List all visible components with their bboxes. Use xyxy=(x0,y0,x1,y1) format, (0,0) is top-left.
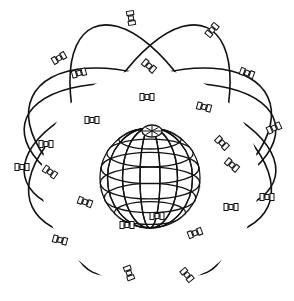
satellite-icon xyxy=(120,222,134,229)
satellite-icon xyxy=(224,204,238,211)
satellite-icon xyxy=(150,213,164,220)
satellite-icon xyxy=(260,194,274,201)
satellite-icon xyxy=(85,117,99,124)
satellite-icon xyxy=(15,164,29,171)
satellite-icon xyxy=(126,10,135,25)
diagram-canvas xyxy=(0,0,294,301)
gps-constellation-diagram xyxy=(0,0,294,301)
satellite-icon xyxy=(266,122,282,134)
satellite-icon xyxy=(140,94,154,101)
satellite-icon xyxy=(39,141,53,148)
satellite-icon xyxy=(51,51,67,64)
